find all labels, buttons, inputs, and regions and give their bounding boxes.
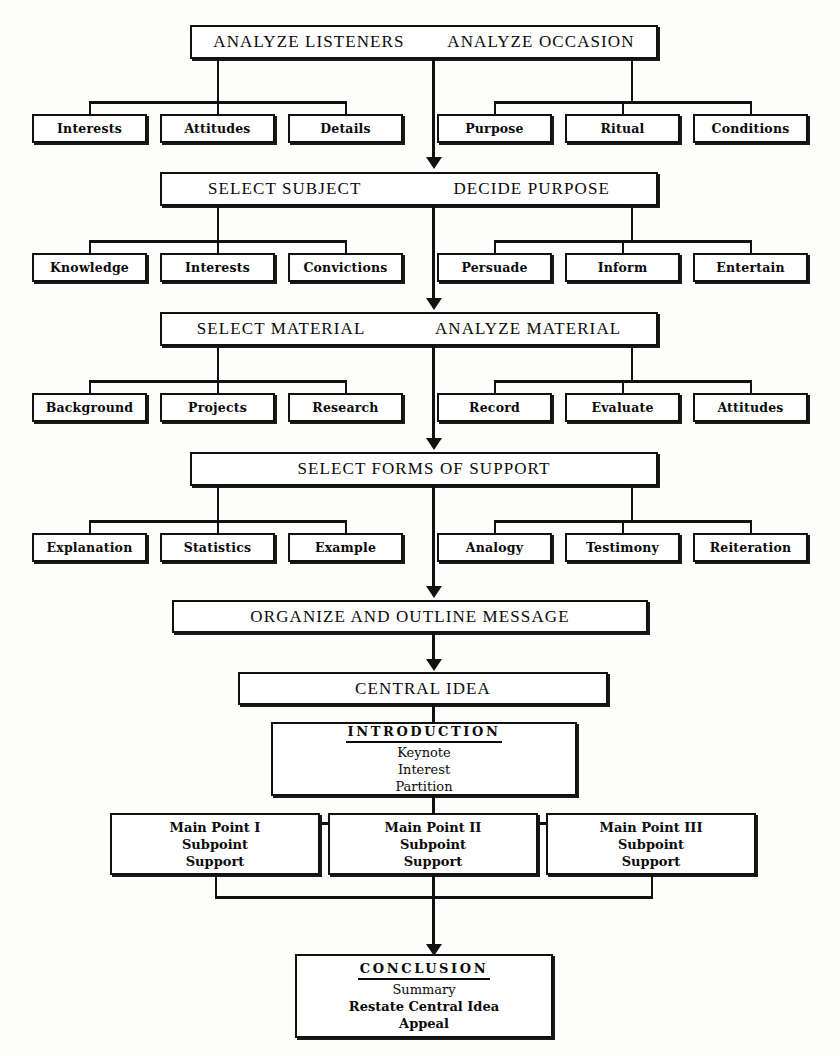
main-point-heading: Main Point I <box>170 819 261 836</box>
connector-stage2-right-drop <box>631 206 633 242</box>
leaf-box: Record <box>437 393 552 422</box>
introduction-line: Keynote <box>397 744 451 761</box>
leaf-label: Interests <box>185 260 250 275</box>
leaf-box: Knowledge <box>32 253 147 282</box>
leaf-label: Testimony <box>586 540 659 555</box>
main-point-box: Main Point III Subpoint Support <box>546 813 756 875</box>
leaf-label: Record <box>469 400 520 415</box>
stage-bar-central-idea: CENTRAL IDEA <box>238 672 608 705</box>
leaf-label: Ritual <box>600 121 644 136</box>
stage4-label: SELECT FORMS OF SUPPORT <box>297 459 550 479</box>
leaf-label: Entertain <box>716 260 784 275</box>
stage-bar-forms-of-support: SELECT FORMS OF SUPPORT <box>190 452 658 486</box>
leaf-label: Analogy <box>466 540 523 555</box>
connector-spine-1 <box>432 59 435 159</box>
connector-mainpoint-1-out <box>215 875 217 898</box>
stage3-left-label: SELECT MATERIAL <box>197 319 366 339</box>
main-point-box: Main Point I Subpoint Support <box>110 813 320 875</box>
conclusion-heading: CONCLUSION <box>358 960 490 980</box>
introduction-line: Partition <box>395 778 452 795</box>
leaf-label: Example <box>315 540 376 555</box>
leaf-label: Knowledge <box>50 260 129 275</box>
leaf-label: Background <box>46 400 134 415</box>
leaf-box: Interests <box>32 114 147 143</box>
leaf-box: Testimony <box>565 533 680 562</box>
leaf-box: Attitudes <box>693 393 808 422</box>
main-point-line: Subpoint <box>400 836 466 853</box>
conclusion-box: CONCLUSION Summary Restate Central Idea … <box>295 954 553 1038</box>
leaf-box: Research <box>288 393 403 422</box>
leaf-label: Attitudes <box>717 400 783 415</box>
leaf-label: Conditions <box>712 121 790 136</box>
leaf-box: Purpose <box>437 114 552 143</box>
stage2-right-label: DECIDE PURPOSE <box>453 179 610 199</box>
stage-bar-analyze: ANALYZE LISTENERS ANALYZE OCCASION <box>190 25 658 59</box>
arrow-down-5 <box>426 659 442 671</box>
stage1-left-label: ANALYZE LISTENERS <box>213 32 404 52</box>
arrow-down-4 <box>426 586 442 598</box>
main-point-heading: Main Point III <box>600 819 703 836</box>
stage1-right-label: ANALYZE OCCASION <box>447 32 634 52</box>
stage5-label: ORGANIZE AND OUTLINE MESSAGE <box>250 607 569 627</box>
leaf-box: Conditions <box>693 114 808 143</box>
connector-stage2-left-drop <box>217 206 219 242</box>
leaf-box: Analogy <box>437 533 552 562</box>
leaf-label: Convictions <box>303 260 387 275</box>
arrow-down-2 <box>426 298 442 310</box>
leaf-box: Example <box>288 533 403 562</box>
leaf-box: Statistics <box>160 533 275 562</box>
leaf-box: Background <box>32 393 147 422</box>
flowchart-canvas: ANALYZE LISTENERS ANALYZE OCCASION Inter… <box>0 0 840 1056</box>
connector-spine-8 <box>432 875 435 948</box>
leaf-label: Interests <box>57 121 122 136</box>
connector-spine-2 <box>432 206 435 300</box>
connector-spine-4 <box>432 486 435 588</box>
connector-stage3-right-drop <box>631 346 633 382</box>
stage-bar-select-material: SELECT MATERIAL ANALYZE MATERIAL <box>160 312 658 346</box>
connector-stage4-left-drop <box>217 486 219 522</box>
leaf-label: Details <box>320 121 371 136</box>
connector-mainpoint-3-out <box>651 875 653 898</box>
arrow-down-3 <box>426 438 442 450</box>
leaf-box: Entertain <box>693 253 808 282</box>
stage-bar-select-subject: SELECT SUBJECT DECIDE PURPOSE <box>160 172 658 206</box>
leaf-box: Inform <box>565 253 680 282</box>
conclusion-line: Restate Central Idea <box>349 998 499 1015</box>
connector-stage1-right-drop <box>631 59 633 103</box>
leaf-box: Explanation <box>32 533 147 562</box>
leaf-box: Evaluate <box>565 393 680 422</box>
stage3-right-label: ANALYZE MATERIAL <box>435 319 621 339</box>
connector-stage3-left-drop <box>217 346 219 382</box>
stage2-left-label: SELECT SUBJECT <box>208 179 361 199</box>
arrow-down-1 <box>426 157 442 169</box>
leaf-box: Interests <box>160 253 275 282</box>
leaf-label: Attitudes <box>184 121 250 136</box>
main-point-line: Support <box>622 853 681 870</box>
leaf-label: Persuade <box>461 260 527 275</box>
conclusion-line: Summary <box>392 981 455 998</box>
main-point-heading: Main Point II <box>385 819 482 836</box>
main-point-line: Subpoint <box>618 836 684 853</box>
stage-bar-organize-outline: ORGANIZE AND OUTLINE MESSAGE <box>172 600 648 633</box>
leaf-label: Evaluate <box>591 400 653 415</box>
main-point-line: Subpoint <box>182 836 248 853</box>
introduction-line: Interest <box>398 761 450 778</box>
leaf-label: Purpose <box>465 121 524 136</box>
leaf-label: Statistics <box>184 540 252 555</box>
leaf-label: Reiteration <box>710 540 792 555</box>
leaf-box: Details <box>288 114 403 143</box>
connector-stage1-left-drop <box>217 59 219 103</box>
introduction-box: INTRODUCTION Keynote Interest Partition <box>271 722 577 796</box>
stage6-label: CENTRAL IDEA <box>355 679 491 699</box>
connector-spine-3 <box>432 346 435 440</box>
leaf-box: Projects <box>160 393 275 422</box>
leaf-box: Convictions <box>288 253 403 282</box>
main-point-line: Support <box>186 853 245 870</box>
main-point-line: Support <box>404 853 463 870</box>
leaf-box: Ritual <box>565 114 680 143</box>
connector-stage4-right-drop <box>631 486 633 522</box>
leaf-box: Attitudes <box>160 114 275 143</box>
main-point-box: Main Point II Subpoint Support <box>328 813 538 875</box>
conclusion-line: Appeal <box>399 1015 449 1032</box>
leaf-label: Inform <box>598 260 648 275</box>
